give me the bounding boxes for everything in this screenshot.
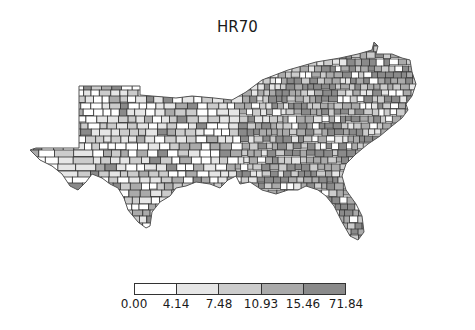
county-polygons bbox=[25, 40, 428, 251]
legend-tick: 71.84 bbox=[329, 297, 363, 311]
choropleth-map bbox=[0, 0, 475, 330]
legend-bin-4 bbox=[262, 284, 304, 294]
legend-colorbar bbox=[134, 283, 346, 295]
legend-tick: 7.48 bbox=[206, 297, 233, 311]
legend-tick: 0.00 bbox=[121, 297, 148, 311]
legend-tick: 4.14 bbox=[163, 297, 190, 311]
legend-tick: 10.93 bbox=[244, 297, 278, 311]
legend-bin-3 bbox=[219, 284, 261, 294]
legend-tick: 15.46 bbox=[286, 297, 320, 311]
legend-bin-5 bbox=[304, 284, 345, 294]
legend-ticks: 0.00 4.14 7.48 10.93 15.46 71.84 bbox=[0, 297, 475, 313]
legend-bin-1 bbox=[135, 284, 177, 294]
legend-bin-2 bbox=[177, 284, 219, 294]
